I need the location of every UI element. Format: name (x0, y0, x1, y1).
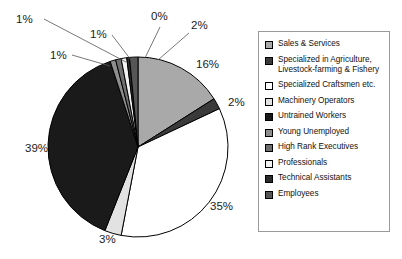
legend-high-rank-executives[interactable]: High Rank Executives (265, 142, 386, 152)
legend-swatch-icon (265, 41, 273, 49)
legend-young-unemployed[interactable]: Young Unemployed (265, 127, 386, 137)
pie-slice-group (48, 57, 228, 237)
legend-item-label: Specialized Craftsmen etc. (278, 80, 375, 90)
legend-agriculture-livestock[interactable]: Specialized in Agriculture, Livestock-fa… (265, 55, 386, 75)
legend-technical-assistants[interactable]: Technical Assistants (265, 173, 386, 183)
legend-item-label: Specialized in Agriculture, Livestock-fa… (278, 55, 379, 75)
legend-swatch-icon (265, 98, 273, 106)
legend-specialized-craftsmen[interactable]: Specialized Craftsmen etc. (265, 80, 386, 90)
legend-item-list: Sales & ServicesSpecialized in Agricultu… (265, 39, 386, 204)
legend-machinery-operators[interactable]: Machinery Operators (265, 96, 386, 106)
legend-item-label: Professionals (278, 158, 327, 168)
legend-swatch-icon (265, 57, 273, 65)
leader-line-technical-assistants (145, 27, 160, 58)
leader-line-employees (158, 33, 189, 60)
chart-legend: Sales & ServicesSpecialized in Agricultu… (258, 31, 390, 232)
percent-label-untrained-workers: 39% (25, 142, 48, 154)
legend-swatch-icon (265, 175, 273, 183)
legend-swatch-icon (265, 82, 273, 90)
percent-label-technical-assistants: 0% (151, 10, 168, 22)
legend-employees[interactable]: Employees (265, 189, 386, 199)
percent-label-agriculture-livestock: 2% (228, 96, 245, 108)
legend-swatch-icon (265, 160, 273, 168)
pie-chart-figure: 16%2%35%3%39%1%1%1%0%2% Sales & Services… (0, 0, 402, 259)
legend-item-label: Young Unemployed (278, 127, 349, 137)
percent-label-employees: 2% (191, 19, 208, 31)
legend-swatch-icon (265, 144, 273, 152)
percent-label-machinery-operators: 3% (99, 233, 116, 245)
legend-item-label: High Rank Executives (278, 142, 358, 152)
leader-line-young-unemployed (72, 55, 110, 66)
percent-label-professionals: 1% (90, 28, 107, 40)
legend-item-label: Technical Assistants (278, 173, 351, 183)
legend-item-label: Employees (278, 189, 319, 199)
legend-swatch-icon (265, 191, 273, 199)
percent-label-sales-and-services: 16% (196, 58, 219, 70)
legend-professionals[interactable]: Professionals (265, 158, 386, 168)
legend-item-label: Machinery Operators (278, 96, 354, 106)
percent-label-high-rank-executives: 1% (16, 13, 33, 25)
legend-swatch-icon (265, 129, 273, 137)
legend-swatch-icon (265, 113, 273, 121)
legend-item-label: Sales & Services (278, 39, 340, 49)
percent-label-specialized-craftsmen: 35% (210, 200, 233, 212)
legend-sales-and-services[interactable]: Sales & Services (265, 39, 386, 49)
legend-untrained-workers[interactable]: Untrained Workers (265, 111, 386, 121)
legend-item-label: Untrained Workers (278, 111, 346, 121)
percent-label-young-unemployed: 1% (50, 49, 67, 61)
